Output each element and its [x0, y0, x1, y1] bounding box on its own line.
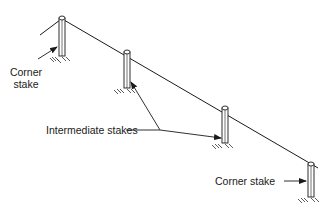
ground-hatch [114, 89, 135, 94]
label-corner-stake-right: Corner stake [215, 175, 275, 187]
ground-hatch [298, 198, 319, 203]
arrow-intermediate-1 [131, 82, 160, 130]
string-line [64, 20, 318, 168]
label-line-1: Corner [8, 66, 44, 78]
intermediate-stake-1 [114, 50, 135, 94]
corner-stake-left [50, 16, 70, 63]
arrow-corner-left [38, 47, 57, 59]
ground-hatch [212, 144, 233, 149]
label-line-2: stake [8, 78, 44, 90]
stake-line-diagram [0, 0, 326, 212]
ground-hatch [50, 57, 70, 63]
corner-stake-right [298, 162, 319, 203]
intermediate-stake-2 [212, 106, 233, 149]
string-line-back [40, 20, 60, 35]
label-intermediate-stakes: Intermediate stakes [46, 124, 138, 136]
label-corner-stake-left: Corner stake [8, 66, 44, 90]
arrow-intermediate-2 [160, 130, 221, 138]
